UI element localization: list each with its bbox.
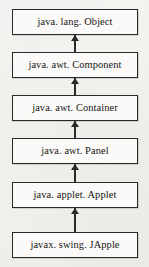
class-box-javax-swing-japplet[interactable]: javax. swing. JApple <box>12 232 138 258</box>
arrow-head-icon <box>71 35 79 41</box>
arrow-head-icon <box>71 121 79 127</box>
inheritance-arrow-component-to-object <box>0 35 149 52</box>
arrow-shaft <box>74 208 76 232</box>
arrow-head-icon <box>71 208 79 214</box>
inheritance-arrow-panel-to-container <box>0 121 149 138</box>
class-box-label: java. lang. Object <box>37 16 112 26</box>
paper-texture-overlay <box>0 0 149 267</box>
inheritance-arrow-japplet-to-applet <box>0 208 149 232</box>
class-hierarchy-diagram: java. lang. Object java. awt. Component … <box>0 0 149 267</box>
class-box-label: java. awt. Panel <box>41 145 108 155</box>
class-box-java-applet-applet[interactable]: java. applet. Applet <box>12 182 138 208</box>
arrow-head-icon <box>71 164 79 170</box>
class-box-label: java. applet. Applet <box>34 189 117 199</box>
arrow-shaft <box>74 78 76 95</box>
inheritance-arrow-applet-to-panel <box>0 164 149 182</box>
arrow-shaft <box>74 164 76 182</box>
class-box-java-awt-container[interactable]: java. awt. Container <box>12 95 138 121</box>
arrow-shaft <box>74 121 76 138</box>
arrow-head-icon <box>71 78 79 84</box>
class-box-label: java. awt. Container <box>32 102 118 112</box>
inheritance-arrow-container-to-component <box>0 78 149 95</box>
class-box-label: javax. swing. JApple <box>30 239 119 249</box>
class-box-java-awt-component[interactable]: java. awt. Component <box>12 52 138 78</box>
class-box-java-awt-panel[interactable]: java. awt. Panel <box>12 138 138 164</box>
class-box-java-lang-object[interactable]: java. lang. Object <box>12 9 138 35</box>
class-box-label: java. awt. Component <box>28 59 121 69</box>
arrow-shaft <box>74 35 76 52</box>
